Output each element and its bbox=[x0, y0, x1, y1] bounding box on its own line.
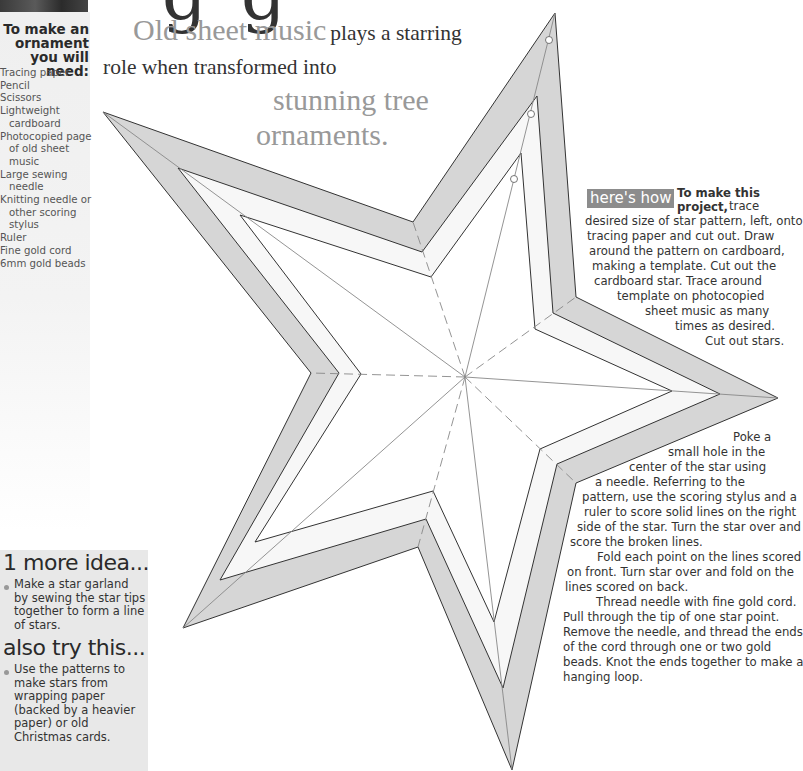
step1-line: cardboard star. Trace around bbox=[594, 274, 762, 288]
step1-line: making a template. Cut out the bbox=[592, 259, 776, 273]
step2-line: small hole in the bbox=[668, 445, 765, 459]
step2-line: pattern, use the scoring stylus and a bbox=[582, 490, 797, 504]
step2-line: Poke a bbox=[733, 430, 771, 444]
step2-line: a needle. Referring to the bbox=[595, 475, 745, 489]
step2-line: on front. Turn star over and fold on the bbox=[567, 565, 794, 579]
bullet-icon bbox=[4, 585, 9, 590]
step2-line: of the cord through one or two gold bbox=[563, 640, 771, 654]
also-try-text: Use the patterns to make stars from wrap… bbox=[14, 663, 146, 744]
bullet-icon bbox=[4, 670, 9, 675]
step1-line: sheet music as many bbox=[645, 304, 769, 318]
hole-marker-icon bbox=[511, 176, 518, 183]
step2-line: ruler to score solid lines on the right bbox=[584, 505, 796, 519]
step2-line: Fold each point on the lines scored bbox=[597, 550, 801, 564]
step1-line: times as desired. bbox=[675, 319, 775, 333]
ideas-box: 1 more idea... Make a star garland by se… bbox=[0, 550, 148, 771]
heres-how-badge: here's how bbox=[587, 189, 674, 208]
hole-marker-icon bbox=[528, 111, 535, 118]
step2-line: side of the star. Turn the star over and bbox=[577, 520, 801, 534]
step2-line: center of the star using bbox=[629, 460, 766, 474]
step1-line: desired size of star pattern, left, onto bbox=[585, 214, 803, 228]
step2-line: Pull through the tip of one star point. bbox=[563, 610, 779, 624]
step1-line: template on photocopied bbox=[617, 289, 764, 303]
step2-line: score the broken lines. bbox=[570, 535, 703, 549]
also-try-title: also try this... bbox=[3, 635, 145, 660]
hole-marker-icon bbox=[546, 37, 553, 44]
step2-line: beads. Knot the ends together to make a bbox=[563, 655, 803, 669]
more-idea-text: Make a star garland by sewing the star t… bbox=[14, 578, 146, 632]
step1-line: around the pattern on cardboard, bbox=[589, 244, 785, 258]
step1-line: Cut out stars. bbox=[705, 334, 784, 348]
step2-line: Remove the needle, and thread the ends bbox=[563, 625, 803, 639]
step2-line: Thread needle with fine gold cord. bbox=[596, 595, 796, 609]
step1-line: tracing paper and cut out. Draw bbox=[587, 229, 774, 243]
step1-line: trace bbox=[729, 199, 759, 213]
more-idea-title: 1 more idea... bbox=[3, 550, 149, 575]
step2-line: hanging loop. bbox=[563, 670, 643, 684]
step2-line: lines scored on back. bbox=[565, 580, 688, 594]
